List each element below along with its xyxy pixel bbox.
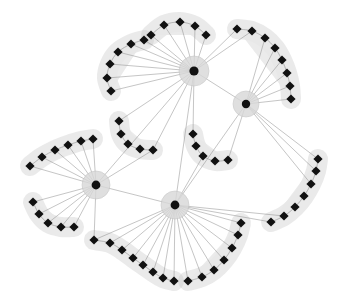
hub-core-hub-left	[92, 181, 101, 190]
hub-core-hub-top-center	[189, 66, 198, 75]
hub-core-hub-bottom-center	[171, 201, 180, 210]
network-graph-canvas	[0, 0, 350, 308]
hub-core-hub-right	[242, 100, 250, 108]
